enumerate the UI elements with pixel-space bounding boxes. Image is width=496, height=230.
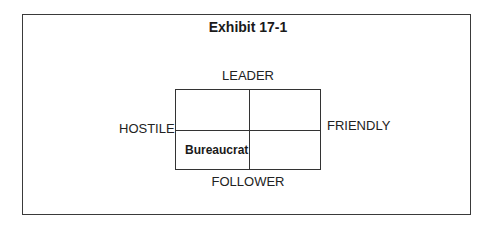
axis-label-hostile: HOSTILE [119, 121, 175, 136]
axis-label-leader: LEADER [0, 68, 496, 83]
axis-label-follower: FOLLOWER [0, 174, 496, 189]
quadrant-grid: Bureaucrat [175, 89, 321, 170]
quadrant-bottom-left: Bureaucrat [185, 143, 248, 157]
axis-label-friendly: FRIENDLY [327, 118, 390, 133]
horizontal-divider [176, 130, 320, 131]
exhibit-title: Exhibit 17-1 [0, 19, 496, 35]
